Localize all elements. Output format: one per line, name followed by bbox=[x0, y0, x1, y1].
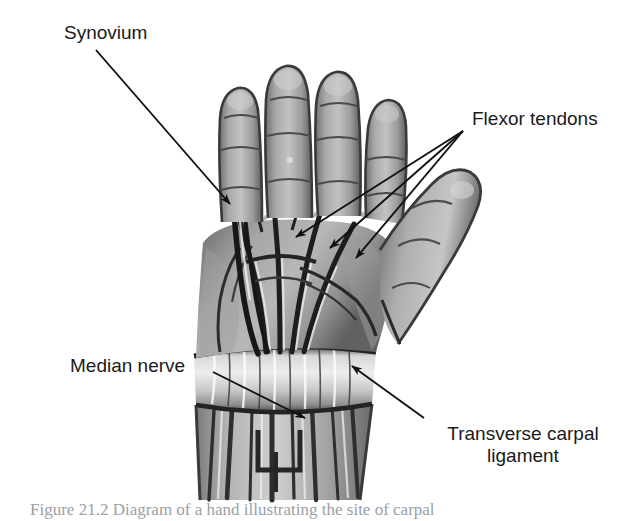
label-median-nerve: Median nerve bbox=[70, 355, 185, 377]
leader-synovium bbox=[96, 50, 230, 204]
label-flexor-tendons: Flexor tendons bbox=[472, 108, 598, 130]
figure-root: Synovium Flexor tendons Median nerve Tra… bbox=[0, 0, 630, 521]
label-tcl-line1: Transverse carpal bbox=[447, 423, 598, 444]
index-finger bbox=[219, 88, 262, 222]
ring-finger bbox=[315, 72, 361, 216]
forearm bbox=[196, 404, 372, 500]
figure-caption-text: Figure 21.2 Diagram of a hand illustrati… bbox=[30, 503, 630, 520]
transverse-carpal-ligament bbox=[194, 346, 376, 412]
label-synovium: Synovium bbox=[64, 22, 147, 44]
label-tcl-line2: ligament bbox=[487, 445, 559, 466]
label-transverse-carpal-ligament: Transverse carpal ligament bbox=[418, 423, 628, 467]
middle-finger bbox=[265, 66, 312, 218]
figure-caption-strip: Figure 21.2 Diagram of a hand illustrati… bbox=[0, 503, 630, 521]
